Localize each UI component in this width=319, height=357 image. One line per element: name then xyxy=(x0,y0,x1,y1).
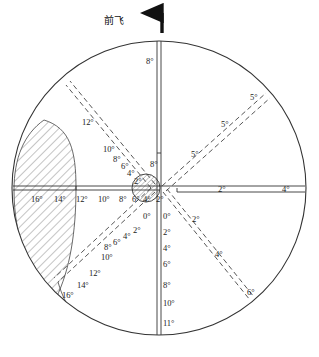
tick-label-axis-lower-left-16: 8° xyxy=(104,243,111,252)
tick-label-axis-left-5: 14° xyxy=(54,195,66,204)
tick-label-axis-lower-right-39: 6° xyxy=(247,288,254,297)
tick-label-axis-right-2: 2° xyxy=(218,185,225,194)
tick-label-axis-down-31: 2° xyxy=(163,228,170,237)
tick-label-axis-upper-left-26: 2° xyxy=(134,177,141,186)
tick-label-axis-upper-right-28: 5° xyxy=(221,120,228,129)
tick-label-axis-lower-left-19: 14° xyxy=(77,281,89,290)
tick-label-axis-up-1: 8° xyxy=(150,160,157,169)
tick-label-axis-lower-left-18: 12° xyxy=(89,269,101,278)
tick-label-axis-up-0: 8° xyxy=(146,57,153,66)
axis-up-line xyxy=(157,41,161,188)
axis-upper-right-line xyxy=(162,93,270,191)
tick-label-axis-left-11: 2° xyxy=(156,195,163,204)
tick-label-axis-upper-right-29: 5° xyxy=(250,93,257,102)
tick-label-axis-lower-right-38: 4° xyxy=(215,250,222,259)
tick-label-axis-upper-left-23: 8° xyxy=(113,155,120,164)
tick-label-axis-upper-left-21: 12° xyxy=(82,118,94,127)
tick-label-axis-down-36: 11° xyxy=(163,319,174,328)
tick-label-axis-down-34: 8° xyxy=(163,281,170,290)
tick-label-axis-down-33: 6° xyxy=(163,260,170,269)
tick-label-axis-left-9: 6° xyxy=(132,195,139,204)
tick-label-axis-left-6: 12° xyxy=(76,195,88,204)
tick-label-axis-left-8: 8° xyxy=(119,195,126,204)
tick-label-axis-upper-right-27: 5° xyxy=(191,150,198,159)
tick-label-axis-down-30: 0° xyxy=(163,212,170,221)
tick-label-axis-right-3: 4° xyxy=(282,185,289,194)
polar-chart-canvas xyxy=(0,0,319,357)
restricted-zone-hatched-region xyxy=(14,120,76,298)
tick-label-axis-left-10: 4° xyxy=(143,195,150,204)
polar-diagram: 前飞 xyxy=(0,0,319,357)
axis-down-line xyxy=(157,188,161,336)
tick-label-axis-lower-left-20: 16° xyxy=(62,291,74,300)
tick-label-axis-lower-right-37: 2° xyxy=(192,215,199,224)
tick-label-axis-upper-left-22: 10° xyxy=(103,145,115,154)
tick-label-axis-left-7: 10° xyxy=(98,195,110,204)
axis-upper-left-line xyxy=(66,81,155,188)
tick-label-axis-lower-left-12: 0° xyxy=(143,212,150,221)
tick-label-axis-lower-left-17: 10° xyxy=(101,253,113,262)
tick-label-axis-lower-left-13: 2° xyxy=(133,226,140,235)
tick-label-axis-left-4: 16° xyxy=(31,195,43,204)
tick-label-axis-down-32: 4° xyxy=(163,244,170,253)
axis-lower-right-line xyxy=(163,189,254,300)
tick-label-axis-lower-left-15: 6° xyxy=(113,238,120,247)
tick-label-axis-lower-left-14: 4° xyxy=(123,232,130,241)
tick-label-axis-down-35: 10° xyxy=(163,299,175,308)
